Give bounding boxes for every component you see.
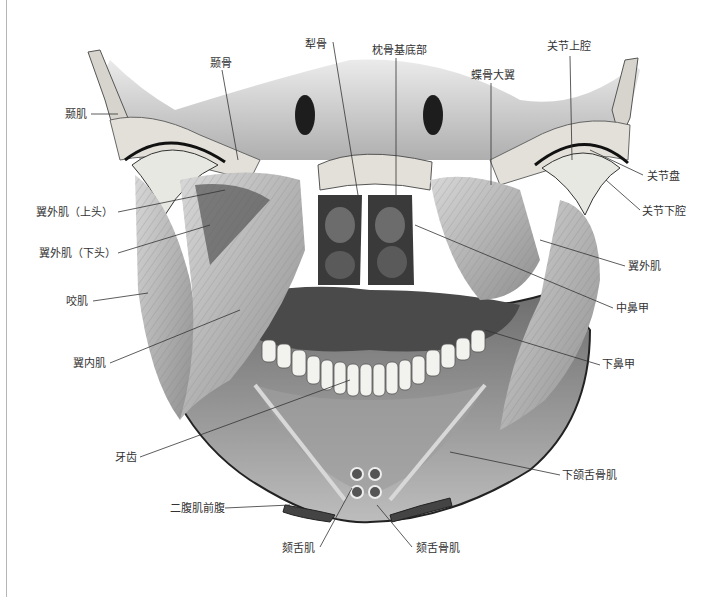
label-medial-pterygoid: 翼内肌 <box>73 357 106 370</box>
label-geniohyoid: 颏舌骨肌 <box>416 542 460 555</box>
label-lateral-pterygoid-upper: 翼外肌（上头） <box>36 206 113 219</box>
label-temporal-bone: 颞骨 <box>210 57 232 70</box>
label-masseter: 咬肌 <box>66 295 88 308</box>
label-inferior-nasal-concha: 下鼻甲 <box>602 358 635 371</box>
label-digastric-anterior-belly: 二腹肌前腹 <box>170 502 225 515</box>
label-basilar-occipital: 枕骨基底部 <box>372 44 427 57</box>
label-mylohyoid: 下颌舌骨肌 <box>562 469 617 482</box>
label-genioglossus: 颏舌肌 <box>282 542 315 555</box>
label-superior-joint-cavity: 关节上腔 <box>547 40 591 53</box>
label-lateral-pterygoid-lower: 翼外肌（下头） <box>39 247 116 260</box>
label-lateral-pterygoid: 翼外肌 <box>628 260 661 273</box>
anatomy-illustration <box>0 0 707 597</box>
label-middle-nasal-concha: 中鼻甲 <box>616 302 649 315</box>
label-teeth: 牙齿 <box>115 451 137 464</box>
label-articular-disc: 关节盘 <box>647 170 680 183</box>
occipital-base <box>318 154 432 190</box>
label-inferior-joint-cavity: 关节下腔 <box>642 205 686 218</box>
label-temporalis: 颞肌 <box>65 108 87 121</box>
label-vomer: 犁骨 <box>305 38 327 51</box>
label-sphenoid-greater-wing: 蝶骨大翼 <box>471 69 515 82</box>
nasal-cavity <box>318 195 414 285</box>
